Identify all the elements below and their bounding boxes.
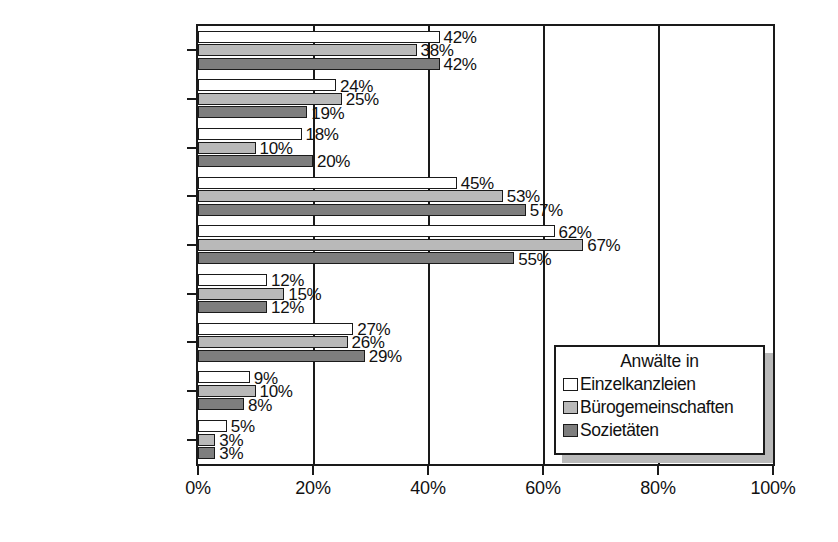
legend-items: EinzelkanzleienBürogemeinschaftenSozietä… [556,374,763,440]
bar [198,31,440,43]
bar-value-label: 10% [260,140,293,157]
bar [198,274,267,286]
x-axis-tick [197,466,199,475]
bar-value-label: 18% [306,126,339,143]
bar-value-label: 55% [518,251,551,268]
x-axis-label: 80% [618,478,698,498]
x-axis-label: 20% [273,478,353,498]
bar [198,79,336,91]
x-axis-tick [312,466,314,475]
x-axis-label: 60% [503,478,583,498]
bar [198,434,215,446]
bar [198,204,526,216]
bar-value-label: 3% [219,445,243,462]
legend-item-label: Sozietäten [580,420,659,440]
x-axis-tick [542,466,544,475]
bar [198,58,440,70]
bar-value-label: 57% [530,202,563,219]
y-axis-tick [187,390,196,392]
bar [198,225,555,237]
x-axis-label: 100% [733,478,813,498]
y-axis-tick [187,439,196,441]
bar-value-label: 67% [587,237,620,254]
bar [198,177,457,189]
bar-value-label: 20% [317,153,350,170]
bar [198,106,307,118]
bar [198,323,353,335]
bar-value-label: 12% [271,299,304,316]
bar [198,155,313,167]
bar [198,44,417,56]
bar [198,385,256,397]
y-axis-tick [187,147,196,149]
bar-group [198,26,773,75]
bar-group [198,75,773,124]
bar [198,371,250,383]
legend-swatch [563,424,578,437]
legend: Anwälte in EinzelkanzleienBürogemeinscha… [554,345,765,455]
x-axis-label: 40% [388,478,468,498]
y-axis-tick [187,341,196,343]
legend-item-label: Bürogemeinschaften [580,397,733,417]
y-axis-tick [187,195,196,197]
legend-swatch [563,401,578,414]
y-axis-tick [187,244,196,246]
bar-value-label: 25% [346,91,379,108]
bar-value-label: 29% [369,348,402,365]
x-axis-tick [772,466,774,475]
bar [198,301,267,313]
y-axis-tick [187,293,196,295]
legend-title: Anwälte in [556,347,763,371]
legend-swatch [563,378,578,391]
bar-group [198,221,773,270]
x-axis-tick [657,466,659,475]
bar-value-label: 19% [311,105,344,122]
bar [198,350,365,362]
legend-item[interactable]: Sozietäten [556,420,763,440]
bar-value-label: 42% [444,56,477,73]
bar [198,252,514,264]
bar-value-label: 8% [248,397,272,414]
y-axis-tick [187,98,196,100]
bar-value-label: 45% [461,175,494,192]
legend-item[interactable]: Einzelkanzleien [556,374,763,394]
legend-item-label: Einzelkanzleien [580,374,696,394]
legend-item[interactable]: Bürogemeinschaften [556,397,763,417]
bar [198,336,348,348]
bar [198,142,256,154]
bar [198,190,503,202]
x-axis-label: 0% [158,478,238,498]
bar-chart: FachzeitschriftenBücherSchulungenKollege… [0,0,838,542]
x-axis-tick [427,466,429,475]
bar [198,447,215,459]
y-axis-tick [187,49,196,51]
bar [198,398,244,410]
